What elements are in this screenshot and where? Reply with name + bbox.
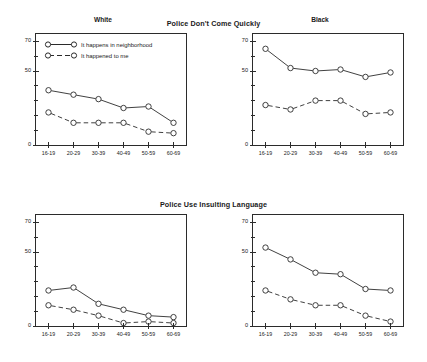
y-tick-mark	[34, 311, 38, 312]
y-tick-mark	[33, 222, 39, 223]
series-segment	[368, 73, 388, 76]
y-tick-label: 50	[25, 67, 31, 73]
series-segment	[101, 304, 121, 309]
x-tick-label: 60-69	[384, 331, 398, 337]
data-point	[71, 92, 76, 97]
panel-top-white: White It happens in neighborhood	[8, 0, 198, 181]
x-tick-mark	[315, 323, 316, 329]
y-tick-label: 0	[245, 141, 248, 147]
y-tick-mark	[33, 252, 39, 253]
x-tick-mark	[123, 323, 124, 329]
data-point	[338, 272, 343, 277]
plot-inner-top-black	[253, 34, 403, 145]
x-tick-mark	[73, 142, 74, 148]
y-tick-mark	[250, 326, 256, 327]
x-tick-mark	[123, 142, 124, 148]
series-segment	[151, 108, 171, 121]
data-point	[338, 98, 343, 103]
y-tick-label: 70	[242, 37, 248, 43]
y-tick-mark	[33, 145, 39, 146]
x-tick-mark	[148, 142, 149, 148]
data-point	[263, 288, 268, 293]
data-point	[313, 270, 318, 275]
series-segment	[368, 316, 388, 321]
x-tick-mark	[173, 142, 174, 148]
y-tick-mark	[34, 85, 38, 86]
x-tick-label: 40-49	[117, 331, 131, 337]
y-tick-mark	[250, 222, 256, 223]
y-tick-mark	[34, 266, 38, 267]
series-segment	[51, 306, 71, 309]
data-point	[96, 120, 101, 125]
series-layer	[253, 215, 403, 326]
plot-area-bottom-black: 0507016-1920-2930-3940-4950-5960-69	[252, 214, 404, 327]
series-layer	[253, 34, 403, 145]
series-segment	[101, 316, 121, 322]
data-point	[388, 288, 393, 293]
data-point	[71, 120, 76, 125]
series-segment	[126, 322, 146, 323]
data-point	[46, 288, 51, 293]
y-tick-mark	[251, 100, 255, 101]
y-tick-mark	[250, 252, 256, 253]
x-tick-mark	[390, 323, 391, 329]
series-segment	[293, 68, 313, 70]
series-segment	[343, 70, 363, 76]
series-segment	[126, 124, 146, 131]
section-police-dont-come-quickly: Police Don't Come Quickly White I	[0, 0, 427, 181]
plot-area-top-white: It happens in neighborhood It happened t…	[35, 33, 187, 146]
y-tick-label: 50	[25, 248, 31, 254]
x-tick-label: 30-39	[92, 150, 106, 156]
x-tick-label: 20-29	[67, 150, 81, 156]
x-tick-label: 40-49	[334, 331, 348, 337]
x-tick-label: 30-39	[309, 331, 323, 337]
y-tick-mark	[251, 237, 255, 238]
data-point	[363, 313, 368, 318]
x-tick-label: 40-49	[117, 150, 131, 156]
legend-item-neighborhood: It happens in neighborhood	[44, 39, 152, 50]
legend-label-neighborhood: It happens in neighborhood	[81, 42, 152, 48]
series-segment	[268, 291, 288, 298]
y-tick-mark	[250, 145, 256, 146]
series-segment	[293, 102, 313, 109]
y-tick-mark	[34, 281, 38, 282]
data-point	[313, 98, 318, 103]
chart-legend: It happens in neighborhood It happened t…	[44, 39, 152, 61]
data-point	[71, 307, 76, 312]
data-point	[288, 107, 293, 112]
x-tick-label: 20-29	[284, 331, 298, 337]
plot-inner-bottom-black	[253, 215, 403, 326]
panel-bottom-white: 0507016-1920-2930-3940-4950-5960-69	[8, 181, 198, 362]
legend-swatch-solid	[44, 39, 78, 50]
series-segment	[76, 310, 96, 315]
x-tick-label: 20-29	[284, 150, 298, 156]
series-happened-to-me	[46, 303, 176, 326]
y-tick-label: 50	[242, 248, 248, 254]
data-point	[46, 88, 51, 93]
x-tick-label: 50-59	[359, 331, 373, 337]
series-segment	[268, 50, 289, 66]
data-point	[288, 257, 293, 262]
x-tick-label: 16-19	[259, 331, 273, 337]
series-segment	[268, 249, 288, 259]
data-point	[388, 70, 393, 75]
data-point	[388, 110, 393, 115]
data-point	[121, 105, 126, 110]
series-happened-to-me	[263, 98, 393, 117]
data-point	[363, 111, 368, 116]
plot-inner-bottom-white	[36, 215, 186, 326]
series-layer	[36, 215, 186, 326]
series-segment	[126, 310, 146, 315]
y-tick-mark	[251, 281, 255, 282]
x-tick-label: 30-39	[309, 150, 323, 156]
x-tick-label: 60-69	[167, 331, 181, 337]
data-point	[313, 303, 318, 308]
y-tick-mark	[34, 130, 38, 131]
x-tick-label: 30-39	[92, 331, 106, 337]
series-segment	[151, 322, 171, 323]
y-tick-mark	[251, 56, 255, 57]
x-tick-mark	[290, 323, 291, 329]
series-segment	[368, 113, 388, 114]
data-point	[96, 313, 101, 318]
x-tick-label: 16-19	[42, 150, 56, 156]
